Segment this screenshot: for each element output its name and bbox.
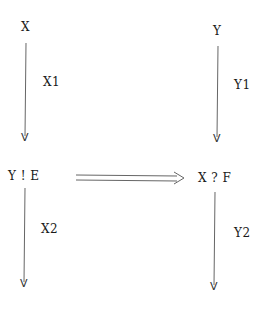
arrowhead-x2-icon: V xyxy=(20,278,28,289)
edge-x1-line xyxy=(25,43,26,136)
arrowhead-y2-icon: V xyxy=(210,281,218,292)
node-x: X xyxy=(21,21,30,33)
edge-label-x2: X2 xyxy=(41,223,58,235)
edge-y1-line xyxy=(217,46,218,137)
edge-label-y1: Y1 xyxy=(234,79,251,91)
edge-label-x1: X1 xyxy=(43,76,60,88)
diagram-wires xyxy=(0,0,264,309)
arrowhead-y1-icon: V xyxy=(213,133,221,144)
node-y-send-e: Y ! E xyxy=(8,170,40,182)
node-x-recv-f: X ? F xyxy=(198,172,231,184)
double-arrow-sync xyxy=(76,172,184,184)
node-y: Y xyxy=(213,25,221,37)
arrowhead-x1-icon: V xyxy=(21,132,29,143)
edge-label-y2: Y2 xyxy=(234,227,251,239)
edge-y2-line xyxy=(214,192,215,285)
edge-x2-line xyxy=(24,188,25,282)
